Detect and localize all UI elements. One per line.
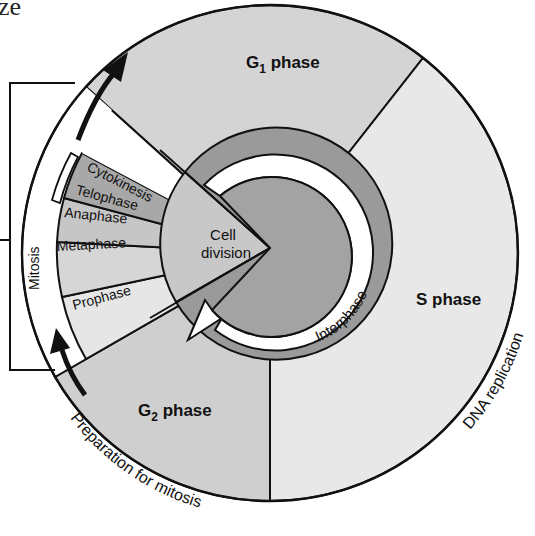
mitosis-label: Mitosis <box>26 246 42 290</box>
s-phase-label: S phase <box>416 290 481 309</box>
cell-division-label-line1: Cell <box>210 226 236 243</box>
cell-division-label-line2: division <box>201 244 251 261</box>
cell-cycle-diagram: G1 phase S phase G2 phase Preparation fo… <box>0 0 535 536</box>
